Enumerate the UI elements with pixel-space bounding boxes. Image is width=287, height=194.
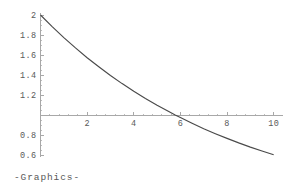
y-tick-label: 1.6 bbox=[20, 51, 37, 61]
x-tick-label: 8 bbox=[224, 119, 230, 129]
plot-area: 246810 0.60.81.21.41.61.82 bbox=[0, 0, 287, 170]
x-tick-label: 4 bbox=[131, 119, 137, 129]
x-tick-label: 6 bbox=[178, 119, 184, 129]
y-tick-label: 1.2 bbox=[20, 91, 37, 101]
y-axis-tick-labels: 0.60.81.21.41.61.82 bbox=[20, 11, 37, 161]
y-tick-label: 2 bbox=[31, 11, 37, 21]
graphics-output-cell: 246810 0.60.81.21.41.61.82 -Graphics- bbox=[0, 0, 287, 194]
x-axis-tick-labels: 246810 bbox=[84, 119, 279, 129]
x-tick-label: 2 bbox=[84, 119, 90, 129]
y-tick-label: 0.8 bbox=[20, 131, 37, 141]
exponential-decay-plot: 246810 0.60.81.21.41.61.82 bbox=[0, 0, 287, 170]
x-tick-label: 10 bbox=[268, 119, 279, 129]
y-tick-label: 1.4 bbox=[20, 71, 37, 81]
y-tick-label: 1.8 bbox=[20, 31, 37, 41]
data-curve bbox=[41, 15, 274, 155]
graphics-output-text: -Graphics- bbox=[14, 172, 80, 183]
y-tick-label: 0.6 bbox=[20, 151, 37, 161]
